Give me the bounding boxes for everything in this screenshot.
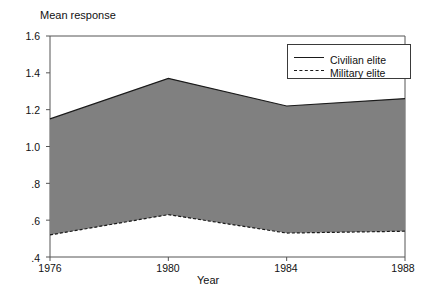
y-tick-marks	[46, 36, 50, 257]
legend-swatch-dashed-icon	[294, 70, 324, 72]
chart-figure: Mean response Year 1.6 1.4 1.2 1.0 .8 .6…	[0, 0, 427, 297]
legend-label-military-elite: Military elite	[330, 67, 385, 79]
legend-entry-military-elite: Military elite	[294, 63, 385, 75]
x-tick-marks	[50, 257, 405, 261]
legend-entry-civilian-elite: Civilian elite	[294, 50, 386, 62]
legend-swatch-solid-icon	[294, 57, 324, 59]
legend: Civilian elite Military elite	[287, 44, 411, 79]
